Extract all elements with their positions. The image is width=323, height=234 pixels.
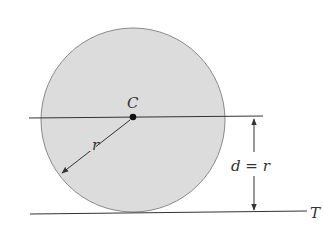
radius-label: r [92,136,100,154]
center-label: C [127,94,139,112]
tangent-line-t [30,211,307,214]
center-point [130,114,137,121]
tangent-line-label: T [310,204,321,222]
distance-label: d = r [231,157,271,175]
circle-tangent-diagram: C r d = r T [0,0,323,234]
